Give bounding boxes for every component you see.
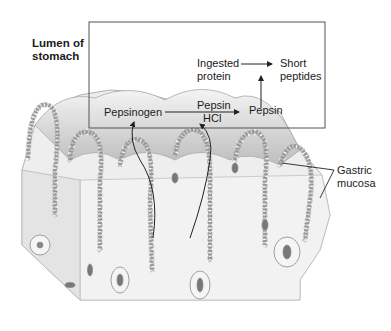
ingested-protein-label: Ingested protein	[197, 57, 239, 83]
lumen-of-stomach-label: Lumen of stomach	[32, 37, 84, 63]
pepsin-product-label: Pepsin	[249, 104, 283, 117]
pepsinogen-label: Pepsinogen	[104, 106, 162, 119]
gastric-pepsin-diagram: Lumen of stomach Ingested protein Short …	[0, 0, 391, 331]
pepsin-catalyst-label: Pepsin	[197, 99, 231, 112]
hcl-label: HCl	[203, 112, 221, 125]
short-peptides-label: Short peptides	[280, 57, 322, 83]
gastric-mucosa-label: Gastric mucosa	[337, 164, 376, 190]
